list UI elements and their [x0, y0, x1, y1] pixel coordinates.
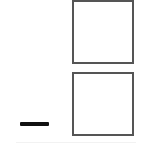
bottom-box-label [74, 74, 75, 75]
faint-baseline [16, 142, 136, 143]
dash-symbol: — [20, 122, 21, 123]
top-square-box [72, 0, 134, 64]
minus-dash-mark: — [20, 122, 49, 126]
top-box-label [74, 2, 75, 3]
bottom-square-box [72, 72, 134, 136]
figure-canvas: — [0, 0, 141, 144]
